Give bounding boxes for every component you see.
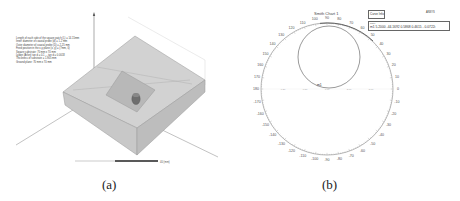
angle-tick-label: 180 — [253, 87, 259, 91]
marker-mag: 0.5868 — [400, 25, 410, 29]
angle-tick-label: 60 — [361, 26, 365, 30]
angle-tick-label: -60 — [360, 149, 365, 153]
angle-tick-label: -170 — [253, 100, 260, 104]
s11-trace-edge — [320, 23, 373, 41]
angle-tick-label: -120 — [288, 149, 295, 153]
marker-rx: 0.4615 - 0.0722i — [411, 25, 435, 29]
angle-tick-label: 0 — [397, 87, 399, 91]
angle-tick-label: 20 — [392, 63, 396, 67]
real-tick-label: 2.00 — [347, 88, 352, 91]
real-tick-label: 5.00 — [369, 88, 374, 91]
marker-m1-label: m1 — [317, 83, 322, 87]
angle-tick-label: 40 — [379, 42, 383, 46]
real-axis-ticks: 0.200.501.002.005.00 — [281, 88, 374, 91]
angle-tick-label: 10 — [395, 75, 399, 79]
angle-tick-label: -160 — [257, 112, 264, 116]
marker-ang: -44.1692 — [387, 25, 400, 29]
marker-table: Name m1 5.2000 -44.1692 0.5868 0.4615 - … — [368, 21, 450, 31]
angle-tick-label: 160 — [257, 63, 263, 67]
angle-tick-label: -40 — [379, 133, 384, 137]
antenna-parameter-list: Length of each side of the square patch … — [16, 37, 116, 64]
marker-freq: 5.2000 — [376, 25, 386, 29]
s11-trace — [298, 26, 360, 88]
antenna-3d-view: 40 (mm) — [0, 0, 230, 201]
angle-tick-label: 150 — [263, 52, 269, 56]
angle-tick-label: -10 — [394, 100, 399, 104]
angle-tick-label: 140 — [270, 42, 276, 46]
angle-tick-label: -70 — [349, 154, 354, 158]
angle-tick-label: 50 — [371, 33, 375, 37]
angle-tick-label: 90 — [325, 16, 329, 20]
legend-curve-label: Curve Info — [369, 11, 384, 17]
legend-curve-info: Curve Info — [368, 10, 385, 19]
marker-name: m1 — [370, 25, 375, 29]
angle-tick-label: 80 — [337, 17, 341, 21]
angle-tick-label: -100 — [311, 157, 318, 161]
real-tick-label: 1.00 — [325, 88, 330, 91]
caption-b: (b) — [322, 177, 337, 193]
angle-tick-label: -110 — [299, 154, 306, 158]
param-line: Ground plane: 70 mm x 70 mm — [16, 61, 116, 64]
angle-tick-label: -20 — [391, 112, 396, 116]
panel-a-antenna-model: 40 (mm) Length of each side of the squar… — [0, 0, 230, 201]
angle-tick-label: -140 — [269, 133, 276, 137]
real-tick-label: 0.20 — [281, 88, 286, 91]
angle-tick-label: 30 — [386, 52, 390, 56]
caption-a: (a) — [102, 177, 116, 193]
angle-tick-label: 120 — [289, 26, 295, 30]
real-tick-label: 0.50 — [303, 88, 308, 91]
angle-tick-label: -150 — [262, 123, 269, 127]
angle-tick-label: 170 — [254, 75, 260, 79]
angle-tick-label: -130 — [278, 142, 285, 146]
marker-col-name: Name — [370, 22, 375, 24]
angle-tick-label: 110 — [300, 21, 306, 25]
angle-tick-label: 100 — [312, 17, 318, 21]
panel-b-smith-chart: m1 0102030405060708090100110120130140150… — [230, 0, 460, 201]
legend-corner-label: ANSYS — [426, 11, 435, 14]
angle-tick-label: -80 — [337, 157, 342, 161]
angle-tick-label: -50 — [370, 142, 375, 146]
angle-tick-label: 130 — [278, 33, 284, 37]
angle-tick-label: -30 — [386, 123, 391, 127]
chart-title: Smith Chart 1 — [314, 11, 338, 16]
angle-tick-label: 70 — [349, 21, 353, 25]
angle-tick-label: -90 — [324, 158, 329, 162]
scale-bar-unit: 40 (mm) — [160, 160, 170, 164]
